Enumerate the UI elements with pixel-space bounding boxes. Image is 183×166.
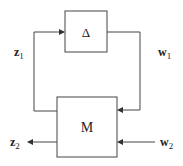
m-block: M <box>57 97 117 157</box>
z2-label: z2 <box>10 135 20 151</box>
w1-label: w1 <box>158 45 171 61</box>
w2-label: w2 <box>160 135 173 151</box>
block-diagram: Δ M z1 w1 z2 w2 <box>0 0 183 166</box>
delta-label: Δ <box>82 25 90 40</box>
z1-label: z1 <box>14 45 24 61</box>
delta-block: Δ <box>65 11 107 52</box>
m-label: M <box>81 120 94 135</box>
